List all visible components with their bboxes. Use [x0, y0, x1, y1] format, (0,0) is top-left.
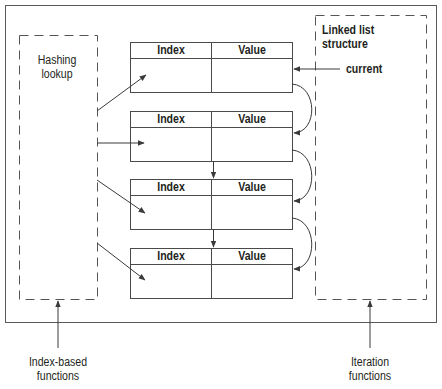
iteration-functions-label-line1: Iteration [335, 355, 405, 369]
index-based-functions-label-line2: functions [23, 369, 93, 383]
current-label: current [346, 62, 390, 76]
linked-list-structure-box [316, 16, 427, 300]
node-1-index-header: Index [136, 43, 206, 58]
index-based-functions-label: Index-based functions [23, 355, 93, 383]
index-based-functions-label-line1: Index-based [23, 355, 93, 369]
node-4-index-header: Index [136, 249, 206, 264]
node-2-index-header: Index [136, 112, 206, 127]
node-3-value-header: Value [217, 180, 287, 195]
linked-list-structure-label-line1: Linked list [322, 23, 392, 37]
diagram-canvas: Index Value Index Value Index Value Inde… [0, 0, 442, 389]
linked-list-structure-label-line2: structure [322, 37, 392, 51]
hashing-lookup-label: Hashing lookup [28, 53, 86, 81]
node-3-index-header: Index [136, 180, 206, 195]
node-4-value-header: Value [217, 249, 287, 264]
iteration-curve-arrows [292, 84, 312, 269]
linked-list-structure-label: Linked list structure [322, 23, 392, 51]
iteration-functions-label-line2: functions [335, 369, 405, 383]
node-2-value-header: Value [217, 112, 287, 127]
hashing-lookup-label-line1: Hashing [28, 53, 86, 67]
iteration-functions-label: Iteration functions [335, 355, 405, 383]
node-1-value-header: Value [217, 43, 287, 58]
hashing-lookup-label-line2: lookup [28, 67, 86, 81]
